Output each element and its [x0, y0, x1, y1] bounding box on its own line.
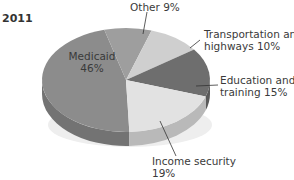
- label-education-line1: Education and: [220, 74, 294, 86]
- label-income-security: Income security 19%: [152, 155, 236, 179]
- label-transportation-line2: highways 10%: [204, 40, 294, 52]
- label-income-line1: Income security: [152, 155, 236, 167]
- label-transportation: Transportation and highways 10%: [204, 28, 294, 52]
- chart-year-title: 2011: [2, 12, 33, 25]
- label-transportation-line1: Transportation and: [204, 28, 294, 40]
- pie-top: [42, 28, 210, 132]
- label-medicaid-value: 46%: [67, 62, 117, 74]
- label-medicaid: Medicaid 46%: [67, 50, 117, 74]
- label-education: Education and training 15%: [220, 74, 294, 98]
- label-other: Other 9%: [130, 1, 180, 13]
- label-medicaid-name: Medicaid: [67, 50, 117, 62]
- label-education-line2: training 15%: [220, 86, 294, 98]
- label-income-line2: 19%: [152, 167, 236, 179]
